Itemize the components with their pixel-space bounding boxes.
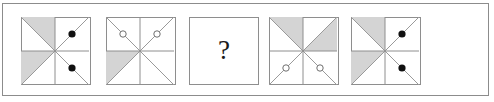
open-circle-mark bbox=[317, 65, 323, 71]
puzzle-panel-1 bbox=[21, 17, 91, 85]
filled-dot-mark bbox=[398, 30, 405, 37]
panel-figure bbox=[21, 17, 89, 85]
puzzle-panel-3[interactable]: ? bbox=[189, 17, 259, 85]
filled-dot-mark bbox=[398, 64, 405, 71]
filled-dot-mark bbox=[68, 64, 75, 71]
open-circle-mark bbox=[283, 65, 289, 71]
panel-figure bbox=[269, 17, 337, 85]
puzzle-panel-5 bbox=[351, 17, 421, 85]
puzzle-panel-4 bbox=[269, 17, 339, 85]
question-mark: ? bbox=[189, 17, 259, 85]
open-circle-mark bbox=[154, 31, 160, 37]
panel-figure bbox=[351, 17, 419, 85]
puzzle-frame: ? bbox=[2, 3, 489, 96]
puzzle-panel-2 bbox=[106, 17, 176, 85]
panel-figure bbox=[106, 17, 174, 85]
open-circle-mark bbox=[120, 31, 126, 37]
filled-dot-mark bbox=[68, 30, 75, 37]
